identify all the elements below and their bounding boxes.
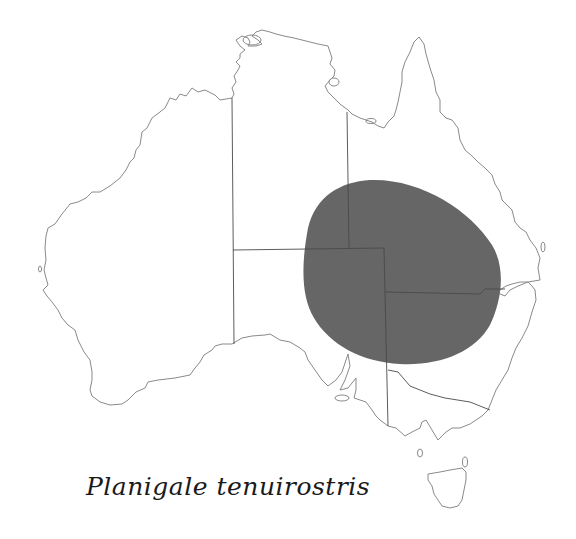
fraser-island: [541, 242, 545, 252]
species-label: Planigale tenuirostris: [86, 472, 370, 501]
wa-island: [39, 266, 42, 272]
distribution-range: [303, 180, 500, 364]
king-island: [418, 449, 423, 457]
wa-border: [232, 98, 234, 344]
kangaroo-island: [335, 395, 349, 401]
flinders-island: [463, 457, 468, 467]
australia-map: [0, 0, 576, 539]
groote-eylandt: [329, 78, 339, 86]
nsw-vic-border: [388, 370, 490, 410]
tasmania: [428, 468, 466, 508]
